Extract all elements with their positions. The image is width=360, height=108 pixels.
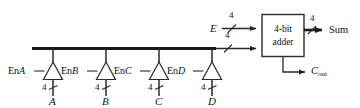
- carry-out-label: Cout: [311, 66, 327, 77]
- input-label-b: B: [102, 96, 109, 107]
- enable-label-d: EnD: [167, 66, 185, 76]
- adder-block: [262, 15, 304, 57]
- tristate-buffer-c: [140, 49, 169, 97]
- width-label-bus: 4: [225, 31, 230, 40]
- enable-label-b: EnB: [61, 66, 78, 76]
- input-label-a: A: [49, 96, 56, 107]
- tristate-buffer-d: [193, 49, 222, 97]
- diagram-canvas: [0, 0, 360, 108]
- sum-output-wire: [304, 26, 322, 34]
- width-label-sum: 4: [310, 14, 315, 23]
- sum-output-label: Sum: [329, 25, 348, 36]
- enable-label-c: EnC: [114, 66, 132, 76]
- width-label-c: 4: [148, 83, 153, 92]
- input-label-d: D: [208, 96, 216, 107]
- adder-label-line2: adder: [262, 38, 304, 48]
- bus-to-adder-wire: [216, 45, 256, 53]
- input-label-c: C: [155, 96, 162, 107]
- width-label-b: 4: [95, 83, 100, 92]
- width-label-d: 4: [201, 83, 206, 92]
- tristate-buffer-b: [87, 49, 116, 97]
- width-label-e: 4: [229, 11, 234, 20]
- width-label-a: 4: [42, 83, 47, 92]
- input-label-e: E: [210, 23, 217, 34]
- adder-label-line1: 4-bit: [262, 25, 304, 35]
- tristate-buffer-a: [34, 49, 63, 97]
- enable-label-a: EnA: [8, 66, 25, 76]
- carry-out-wire: [283, 57, 305, 73]
- circuit-diagram: EnA EnB EnC EnD 4 4 4 4 A B C D E 4 4 4-…: [0, 0, 360, 108]
